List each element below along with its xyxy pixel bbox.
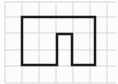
figure-canvas xyxy=(0,0,118,84)
figure-background xyxy=(0,0,118,84)
grid-figure-svg xyxy=(0,0,118,84)
